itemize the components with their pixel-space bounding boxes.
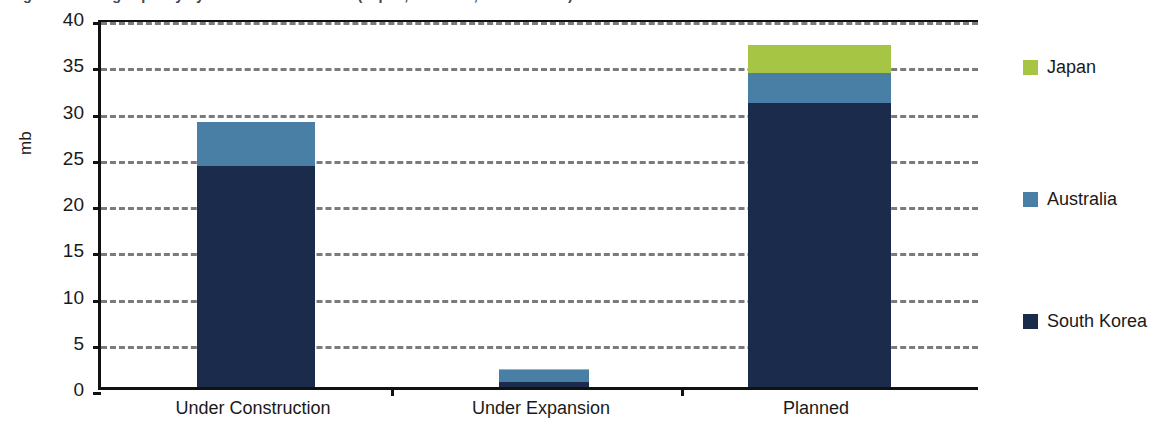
x-axis-label: Under Construction — [175, 398, 330, 419]
legend-item-south-korea[interactable]: South Korea — [1023, 312, 1147, 330]
bar-stack — [748, 45, 891, 387]
bar-segment-australia[interactable] — [197, 122, 315, 166]
bar-group[interactable] — [748, 22, 891, 387]
y-tick-mark — [93, 346, 101, 349]
page-edge — [0, 432, 1171, 437]
legend-label: Australia — [1047, 190, 1117, 208]
bar-segment-south-korea[interactable] — [499, 382, 589, 387]
y-tick-label: 35 — [4, 56, 84, 75]
legend-swatch-icon — [1023, 314, 1038, 329]
plot-area — [98, 20, 978, 390]
stacked-bar-chart: Figure: Refining capacity by status in A… — [0, 0, 1171, 437]
bar-group[interactable] — [499, 22, 589, 387]
bar-stack — [197, 122, 315, 387]
y-axis-tick-labels: 0510152025303540 — [0, 0, 92, 437]
legend-label: Japan — [1047, 58, 1096, 76]
bar-stack — [499, 369, 589, 387]
x-axis-label: Planned — [783, 398, 849, 419]
y-tick-mark — [93, 115, 101, 118]
y-tick-mark — [93, 207, 101, 210]
bar-segment-australia[interactable] — [499, 370, 589, 382]
x-tick-mark — [681, 387, 684, 396]
y-tick-mark — [93, 161, 101, 164]
x-axis-category-labels: Under ConstructionUnder ExpansionPlanned — [98, 398, 978, 428]
bar-group[interactable] — [197, 22, 315, 387]
y-tick-mark — [93, 253, 101, 256]
legend-item-australia[interactable]: Australia — [1023, 190, 1117, 208]
y-tick-label: 25 — [4, 149, 84, 168]
bar-segment-japan[interactable] — [748, 45, 891, 73]
y-tick-label: 20 — [4, 195, 84, 214]
x-axis-label: Under Expansion — [472, 398, 610, 419]
bar-segment-australia[interactable] — [748, 73, 891, 104]
y-tick-mark — [93, 392, 101, 395]
bar-segment-south-korea[interactable] — [748, 103, 891, 387]
legend-swatch-icon — [1023, 192, 1038, 207]
chart-legend: JapanAustraliaSouth Korea — [1023, 0, 1171, 437]
legend-item-japan[interactable]: Japan — [1023, 58, 1096, 76]
chart-title: Figure: Refining capacity by status in A… — [10, 0, 1010, 5]
y-tick-label: 0 — [4, 380, 84, 399]
legend-label: South Korea — [1047, 312, 1147, 330]
y-tick-label: 30 — [4, 103, 84, 122]
y-tick-label: 40 — [4, 10, 84, 29]
y-tick-label: 5 — [4, 334, 84, 353]
y-tick-label: 10 — [4, 288, 84, 307]
y-tick-mark — [93, 68, 101, 71]
x-tick-mark — [391, 387, 394, 396]
bar-segment-south-korea[interactable] — [197, 166, 315, 387]
y-tick-mark — [93, 22, 101, 25]
y-tick-label: 15 — [4, 241, 84, 260]
legend-swatch-icon — [1023, 60, 1038, 75]
y-tick-mark — [93, 300, 101, 303]
